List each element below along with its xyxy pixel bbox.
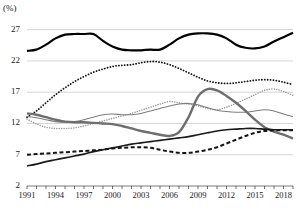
y-axis-tick-label-17: 17 — [2, 86, 20, 96]
y-axis-tick-label-12: 12 — [2, 117, 20, 127]
y-axis-tick-label-27: 27 — [2, 24, 20, 34]
x-axis-tick-label-2018: 2018 — [267, 190, 298, 200]
y-axis-unit-label: (%) — [3, 3, 17, 13]
data-series-series-1-solid-black-thick — [27, 33, 293, 51]
y-axis-tick-label-7: 7 — [2, 149, 20, 159]
y-axis-tick-label-2: 2 — [2, 180, 20, 190]
chart-plot-area — [0, 0, 297, 214]
chart-container: (%) 2722171272 1991199419972000200320062… — [0, 0, 297, 214]
y-axis-tick-label-22: 22 — [2, 55, 20, 65]
data-series-series-5-solid-gray-thick — [27, 89, 293, 139]
